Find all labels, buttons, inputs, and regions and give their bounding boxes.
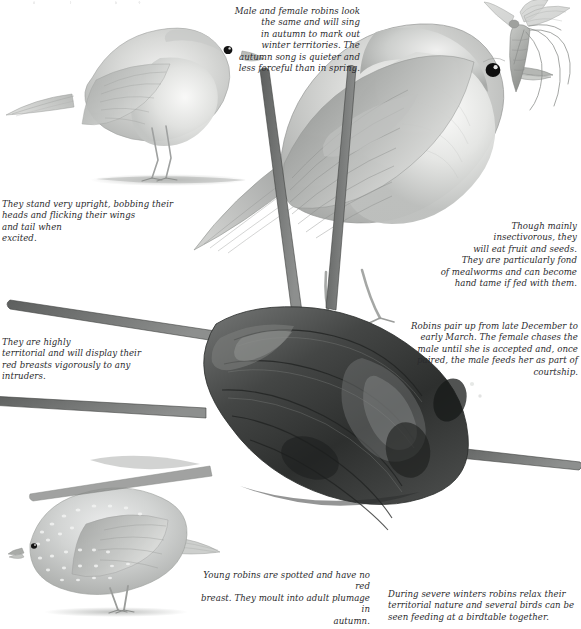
caption-song-territory: Male and female robins look the same and… (192, 6, 360, 74)
log-perch (150, 280, 550, 530)
caption-pairing: Robins pair up from late December to ear… (398, 321, 578, 378)
caption-juvenile: Young robins are spotted and have no red… (192, 570, 370, 627)
caption-diet: Though mainly insectivorous, they will e… (405, 221, 577, 289)
crane-fly (480, 0, 581, 130)
cropped-text-sliver (4, 0, 219, 6)
caption-territorial: They are highly territorial and will dis… (2, 337, 192, 383)
caption-winter: During severe winters robins relax their… (388, 589, 580, 623)
caption-posture: They stand very upright, bobbing their h… (2, 199, 202, 245)
illustration-plate: Male and female robins look the same and… (0, 0, 581, 629)
